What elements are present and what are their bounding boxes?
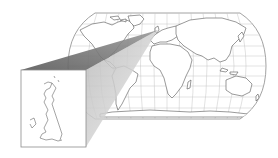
world-map-figure — [0, 0, 278, 158]
map-svg — [0, 0, 278, 158]
inset-great-britain — [21, 70, 86, 147]
